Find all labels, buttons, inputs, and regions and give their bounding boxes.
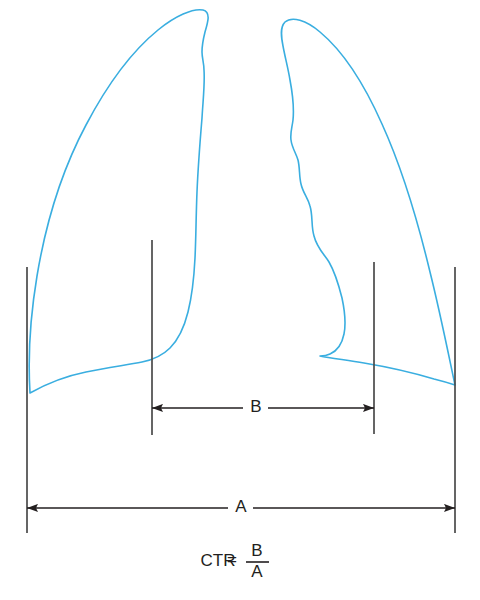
formula-numerator: B [251, 541, 262, 560]
thoracic-width-label: A [235, 497, 247, 516]
cardiac-width-label: B [250, 397, 261, 416]
formula-equals: = [227, 550, 237, 569]
ctr-diagram-canvas: B A CTR = B A [0, 0, 480, 600]
formula-denominator: A [251, 562, 263, 581]
ctr-diagram-figure: B A CTR = B A [0, 0, 480, 600]
